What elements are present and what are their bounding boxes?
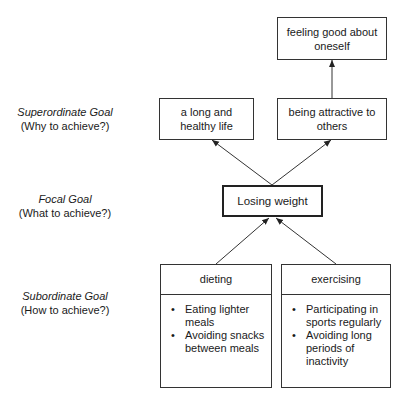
- means-dieting-list: Eating lighter meals Avoiding snacks bet…: [161, 295, 271, 355]
- focal-goal-question: (What to achieve?): [0, 206, 130, 220]
- node-being-attractive-text: being attractive to others: [284, 105, 380, 133]
- node-long-healthy-life: a long and healthy life: [159, 98, 254, 140]
- focal-goal-label: Focal Goal (What to achieve?): [0, 192, 130, 220]
- subordinate-goal-label: Subordinate Goal (How to achieve?): [0, 289, 130, 317]
- node-being-attractive: being attractive to others: [277, 98, 387, 140]
- subordinate-goal-question: (How to achieve?): [0, 303, 130, 317]
- arrow-losing-weight-to-healthy-life: [212, 140, 272, 185]
- node-feeling-good-text: feeling good about oneself: [284, 25, 380, 53]
- arrow-losing-weight-to-attractive: [272, 140, 331, 185]
- means-exercising-item: Avoiding long periods of inactivity: [306, 329, 384, 368]
- goal-hierarchy-diagram: Superordinate Goal (Why to achieve?) Foc…: [0, 0, 410, 403]
- means-exercising-title: exercising: [282, 265, 390, 295]
- means-exercising-item: Participating in sports regularly: [306, 303, 384, 329]
- node-losing-weight-text: Losing weight: [237, 194, 307, 208]
- means-dieting-item: Eating lighter meals: [185, 303, 265, 329]
- focal-goal-title: Focal Goal: [0, 192, 130, 206]
- superordinate-goal-question: (Why to achieve?): [0, 119, 130, 133]
- node-feeling-good: feeling good about oneself: [277, 17, 387, 60]
- subordinate-goal-title: Subordinate Goal: [0, 289, 130, 303]
- means-exercising-list: Participating in sports regularly Avoidi…: [282, 295, 390, 368]
- means-box-exercising: exercising Participating in sports regul…: [281, 264, 391, 388]
- node-losing-weight: Losing weight: [222, 185, 323, 217]
- means-box-dieting: dieting Eating lighter meals Avoiding sn…: [160, 264, 272, 388]
- superordinate-goal-title: Superordinate Goal: [0, 105, 130, 119]
- superordinate-goal-label: Superordinate Goal (Why to achieve?): [0, 105, 130, 133]
- node-long-healthy-life-text: a long and healthy life: [166, 105, 247, 133]
- means-dieting-item: Avoiding snacks between meals: [185, 329, 265, 355]
- arrow-dieting-to-losing-weight: [216, 218, 269, 264]
- arrow-exercising-to-losing-weight: [276, 218, 336, 264]
- means-dieting-title: dieting: [161, 265, 271, 295]
